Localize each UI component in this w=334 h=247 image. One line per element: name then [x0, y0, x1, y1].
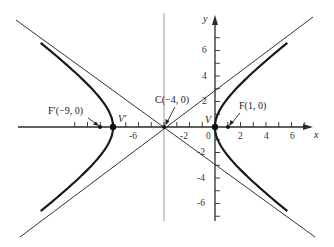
y-tick-label: 4: [202, 72, 207, 82]
x-tick-label: -6: [129, 132, 137, 142]
y-tick-label: -4: [197, 174, 205, 184]
x-tick-label: 0: [206, 132, 211, 142]
asymptote-negative: [16, 20, 315, 237]
vertex-right-label: V: [205, 115, 211, 125]
y-tick-label: -6: [197, 199, 205, 209]
y-axis-label: y: [203, 14, 207, 24]
focus-right-label: F(1, 0): [239, 101, 266, 111]
x-axis-label: x: [314, 130, 318, 140]
hyperbola-diagram: [0, 0, 334, 247]
y-axis-arrow-icon: [212, 15, 218, 25]
vertex-right-dot: [212, 124, 218, 130]
center-dot: [162, 125, 166, 129]
vertex-left-dot: [110, 124, 116, 130]
x-tick-label: -2: [180, 132, 188, 142]
vertex-left-label: V′: [118, 114, 126, 124]
center-arrowhead-icon: [166, 119, 170, 126]
y-tick-label: 2: [202, 97, 207, 107]
center-label: C(−4, 0): [155, 95, 189, 105]
x-tick-label: 6: [290, 132, 295, 142]
focus-left-label: F′(−9, 0): [48, 106, 83, 116]
y-tick-label: 6: [202, 46, 207, 56]
y-tick-label: -2: [197, 148, 205, 158]
x-tick-label: 2: [238, 132, 243, 142]
x-tick-label: 4: [264, 132, 269, 142]
